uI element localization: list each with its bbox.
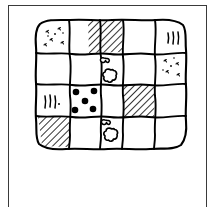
flower-icon: [103, 69, 117, 82]
polka-dot: [82, 98, 89, 105]
flower-patch-r4c3: [101, 120, 117, 141]
stroked-patch-r3c1: [45, 95, 60, 108]
flower-icon: [104, 128, 118, 141]
speckled-patch-r1c1: [44, 28, 64, 46]
seam-h2: [36, 84, 186, 86]
flower-patch-r2c3: [100, 58, 116, 82]
quilt-body: [34, 16, 186, 154]
polka-dot: [72, 107, 79, 114]
speckled-patch-r2c5: [162, 57, 179, 76]
polka-dot: [73, 89, 80, 96]
dotted-patch-r3c2: [72, 88, 98, 114]
polka-dot: [90, 106, 97, 113]
quilt-horizontal-seams: [36, 53, 186, 118]
hatched-patch-r1c3: [84, 16, 128, 58]
quilt-illustration: [0, 0, 218, 207]
seam-h1: [36, 53, 186, 55]
polka-dot: [91, 88, 98, 95]
stroked-patch-r1c5: [168, 32, 179, 44]
screenshot-canvas: Patchwork quilt line drawing Hand-drawn …: [0, 0, 218, 207]
leaf-icon: [101, 120, 110, 125]
leaf-icon: [100, 58, 109, 63]
